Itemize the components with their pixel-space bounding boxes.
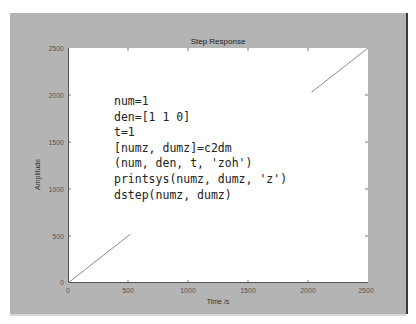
code-line: num=1 xyxy=(114,94,287,110)
figure-bottom-edge xyxy=(10,314,406,316)
code-line: printsys(numz, dumz, 'z') xyxy=(114,172,287,188)
x-tick-label: 500 xyxy=(122,287,134,294)
x-tick-label: 2000 xyxy=(300,287,316,294)
y-tick-label: 1500 xyxy=(48,139,64,146)
x-axis-label: Time /s xyxy=(207,298,230,305)
y-tick-label: 500 xyxy=(52,233,64,240)
x-tick-label: 1000 xyxy=(180,287,196,294)
y-tick-label: 2000 xyxy=(48,92,64,99)
chart-title: Step Response xyxy=(68,37,368,46)
x-tick-label: 2500 xyxy=(358,287,374,294)
series-segment-2 xyxy=(312,48,368,92)
y-tick-label: 1000 xyxy=(48,186,64,193)
figure-right-border xyxy=(406,13,408,314)
code-line: t=1 xyxy=(114,125,287,141)
series-segment-1 xyxy=(68,234,130,283)
code-line: dstep(numz, dumz) xyxy=(114,188,287,204)
code-line: (num, den, t, 'zoh') xyxy=(114,156,287,172)
code-line: den=[1 1 0] xyxy=(114,110,287,126)
y-axis-label: Amplitude xyxy=(34,159,41,190)
x-tick-label: 1500 xyxy=(240,287,256,294)
y-tick-label: 0 xyxy=(60,279,64,286)
code-annotation: num=1den=[1 1 0]t=1[numz, dumz]=c2dm(num… xyxy=(114,94,287,203)
code-line: [numz, dumz]=c2dm xyxy=(114,141,287,157)
y-tick-label: 2500 xyxy=(48,45,64,52)
x-tick-label: 0 xyxy=(66,287,70,294)
